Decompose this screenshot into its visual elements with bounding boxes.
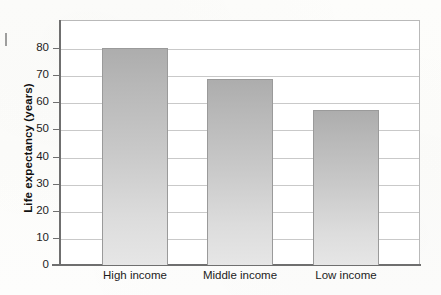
y-axis-tick [53, 75, 60, 76]
y-axis-tick-label: 80 [0, 42, 49, 54]
y-axis-tick-label: 30 [0, 178, 49, 190]
y-axis-tick [53, 157, 60, 158]
y-axis-tick [53, 184, 60, 185]
y-axis-tick [53, 48, 60, 49]
y-axis-tick-label: 40 [0, 151, 49, 163]
y-axis-tick [53, 265, 60, 266]
y-axis-tick-labels: 80706050403020100 [0, 0, 49, 295]
y-axis-tick [53, 102, 60, 103]
bar-chart-screenshot: Life expectancy (years) 8070605040302010… [0, 0, 441, 295]
y-axis-tick-label: 10 [0, 232, 49, 244]
y-axis-tick [53, 129, 60, 130]
y-axis-tick-label: 20 [0, 205, 49, 217]
y-axis-tick-label: 60 [0, 96, 49, 108]
y-axis-tick-label: 0 [0, 259, 49, 271]
y-axis-tick-label: 70 [0, 69, 49, 81]
y-axis-tick [53, 211, 60, 212]
y-axis-tick-label: 50 [0, 123, 49, 135]
y-axis-line [59, 20, 61, 266]
bar [102, 48, 168, 265]
y-axis-tick [53, 238, 60, 239]
bar [207, 79, 273, 265]
bar [313, 110, 379, 265]
x-axis-category-label: Low income [276, 270, 416, 282]
